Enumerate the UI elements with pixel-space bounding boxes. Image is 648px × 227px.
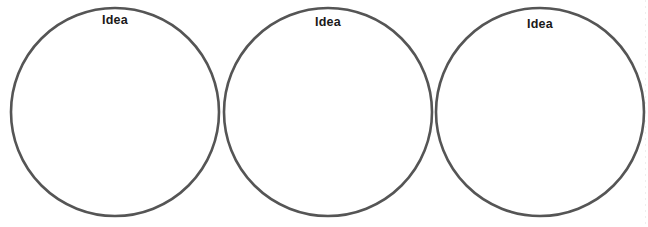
- right-edge-dotted-artifact: [645, 0, 646, 227]
- idea-circle-1-label: Idea: [102, 14, 128, 27]
- idea-circle-1[interactable]: [11, 8, 219, 216]
- idea-circles-worksheet: Idea Idea Idea: [0, 0, 648, 227]
- idea-circle-3-label: Idea: [527, 18, 553, 31]
- idea-circle-2-label: Idea: [315, 16, 341, 29]
- idea-circle-2[interactable]: [224, 8, 432, 216]
- circles-canvas: [0, 0, 648, 227]
- circle-group: Idea Idea Idea: [0, 0, 648, 227]
- idea-circle-3[interactable]: [436, 8, 644, 216]
